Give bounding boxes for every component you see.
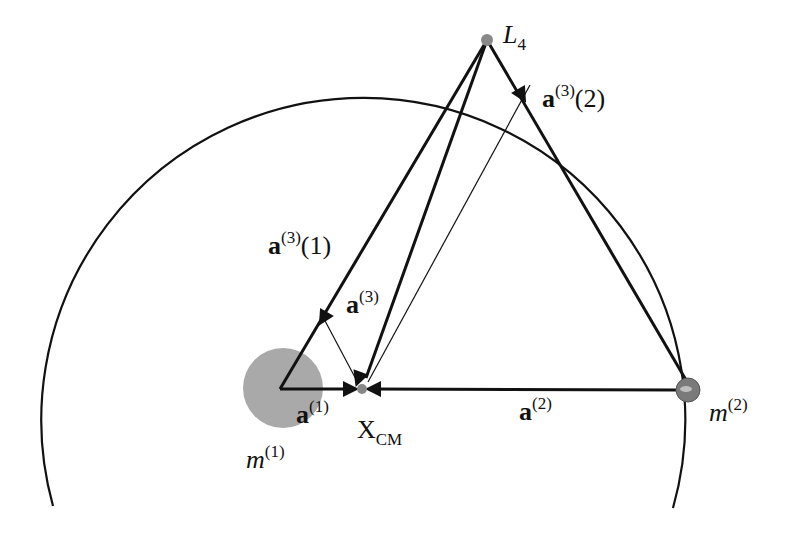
label-m2: m(2) (709, 400, 748, 426)
label-a3-vec: a (346, 290, 359, 319)
label-l4: L4 (503, 22, 526, 48)
edge-l4-m1 (280, 40, 487, 389)
label-xcm: XCM (357, 417, 402, 443)
label-a2-sup: (2) (532, 394, 552, 413)
label-a3-1-arg: (1) (301, 231, 331, 260)
label-a3: a(3) (346, 292, 379, 318)
label-xcm-sub: CM (376, 430, 402, 449)
label-a3-2-sup: (3) (555, 81, 575, 100)
label-a3-1-sup: (3) (281, 228, 301, 247)
label-a1-vec: a (296, 400, 309, 429)
mass-2-planet (676, 378, 700, 402)
label-a2: a(2) (519, 399, 552, 425)
label-m2-main: m (709, 398, 728, 427)
thin-line-a3-1-to-xcm (323, 317, 358, 383)
arrow-a3-1-icon (312, 308, 334, 330)
label-l4-sub: 4 (517, 35, 526, 54)
l4-point (481, 34, 493, 46)
thin-line-a3-2-to-xcm (368, 85, 530, 382)
label-a2-vec: a (519, 397, 532, 426)
label-a1: a(1) (296, 402, 329, 428)
label-a3-2-arg: (2) (575, 84, 605, 113)
xcm-point (357, 384, 367, 394)
label-a1-sup: (1) (309, 397, 329, 416)
label-m1-sup: (1) (265, 442, 285, 461)
label-a3-1: a(3)(1) (268, 233, 331, 259)
label-a3-sup: (3) (359, 287, 379, 306)
label-a3-2: a(3)(2) (542, 86, 605, 112)
label-a3-1-vec: a (268, 231, 281, 260)
l4-diagram (0, 0, 793, 534)
edge-m2-xcm (374, 389, 676, 390)
label-a3-2-vec: a (542, 84, 555, 113)
vector-a3 (366, 40, 487, 378)
label-l4-main: L (503, 20, 517, 49)
label-m1: m(1) (246, 447, 285, 473)
label-m2-sup: (2) (728, 395, 748, 414)
arrow-a2-icon (365, 381, 381, 397)
label-xcm-main: X (357, 415, 376, 444)
label-m1-main: m (246, 445, 265, 474)
